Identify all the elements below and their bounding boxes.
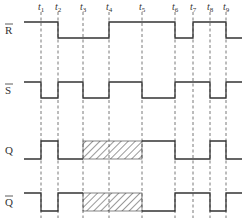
time-marker-label: t9 bbox=[223, 1, 230, 14]
undefined-state-hatch bbox=[83, 193, 142, 211]
signal-waveform bbox=[24, 22, 242, 38]
signal-waveform bbox=[142, 193, 242, 211]
timing-diagram: t1t2t3t4t5t6t7t8t9 RSQQ bbox=[0, 0, 249, 222]
time-marker-labels: t1t2t3t4t5t6t7t8t9 bbox=[38, 1, 230, 14]
undefined-state-regions bbox=[83, 141, 142, 211]
signal-waveform bbox=[24, 193, 83, 211]
time-marker-lines bbox=[41, 12, 226, 218]
signal-label: Q bbox=[5, 144, 13, 156]
signal-label: S bbox=[5, 84, 11, 96]
time-marker-label: t3 bbox=[80, 1, 87, 14]
time-marker-label: t6 bbox=[172, 1, 179, 14]
signal-waveforms bbox=[24, 22, 242, 211]
undefined-state-hatch bbox=[83, 141, 142, 159]
time-marker-label: t7 bbox=[190, 1, 197, 14]
time-marker-label: t4 bbox=[106, 1, 113, 14]
signal-label: Q bbox=[5, 196, 13, 208]
signal-waveform bbox=[24, 141, 83, 159]
signal-label: R bbox=[5, 24, 13, 36]
signal-labels: RSQQ bbox=[5, 24, 13, 208]
time-marker-label: t8 bbox=[207, 1, 214, 14]
signal-waveform bbox=[24, 82, 242, 98]
time-marker-label: t5 bbox=[139, 1, 146, 14]
signal-waveform bbox=[142, 141, 242, 159]
time-marker-label: t1 bbox=[38, 1, 45, 14]
time-marker-label: t2 bbox=[55, 1, 62, 14]
